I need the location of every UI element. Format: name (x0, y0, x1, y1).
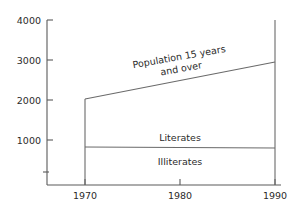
x-tick-label-1990: 1990 (263, 190, 287, 201)
annotation-literates: Literates (159, 132, 201, 143)
annotation-population-group: Population 15 years and over (132, 43, 229, 82)
y-tick-label-2000: 2000 (17, 95, 41, 106)
x-tick-label-1980: 1980 (168, 190, 192, 201)
chart-figure: 4000 3000 2000 1000 1970 1980 1990 Popul… (0, 0, 302, 213)
x-tick-label-1970: 1970 (73, 190, 97, 201)
y-tick-label-4000: 4000 (17, 15, 41, 26)
y-tick-label-3000: 3000 (17, 55, 41, 66)
y-tick-label-1000: 1000 (17, 135, 41, 146)
line-chart-svg: 4000 3000 2000 1000 1970 1980 1990 Popul… (0, 0, 302, 213)
series-line-literates (85, 147, 275, 148)
annotation-illiterates: Illiterates (158, 156, 203, 167)
